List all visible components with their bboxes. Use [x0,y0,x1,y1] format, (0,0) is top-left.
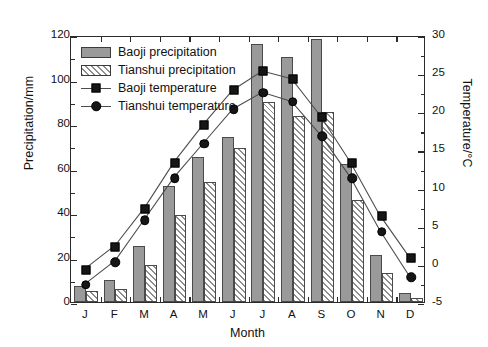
y-tick-label-left: 20 [30,251,70,263]
marker-tianshui-temperature [288,97,298,107]
legend-item-3: Tianshui temperature [81,97,236,115]
y-tick-label-right: 25 [432,66,472,78]
x-tick-label-d-11: D [398,308,422,320]
y-tick-label-left: 60 [30,162,70,174]
y-tick-label-left: 80 [30,117,70,129]
y-tick-label-left: 120 [30,28,70,40]
marker-baoji-temperature [377,212,386,221]
legend-item-0: Baoji precipitation [81,43,236,61]
marker-baoji-temperature [170,158,179,167]
marker-baoji-temperature [200,120,209,129]
marker-tianshui-temperature [377,227,387,237]
legend-item-2: Baoji temperature [81,79,236,97]
y-tick-label-right: 5 [432,219,472,231]
marker-baoji-temperature [407,254,416,263]
legend-swatch-solid-bar-swatch [81,47,111,58]
x-axis-label: Month [70,326,425,340]
marker-baoji-temperature [111,242,120,251]
legend-label: Baoji precipitation [118,45,217,59]
marker-tianshui-temperature [81,280,91,290]
x-tick-label-m-2: M [132,308,156,320]
y-axis-label-right: Temperature/°C [460,8,474,238]
legend-label: Tianshui temperature [118,99,236,113]
x-tick-label-j-0: J [73,308,97,320]
y-tick-label-right: 30 [432,28,472,40]
legend-marker [91,101,101,111]
marker-tianshui-temperature [259,88,269,98]
x-tick-label-f-1: F [102,308,126,320]
legend-swatch-hatched-bar-swatch [81,65,111,76]
legend-label: Tianshui precipitation [118,63,236,77]
marker-baoji-temperature [259,67,268,76]
marker-tianshui-temperature [170,173,180,183]
climate-chart-figure: Precipitation/mm Temperature/°C Month Ba… [0,0,488,347]
marker-tianshui-temperature [199,139,209,149]
legend-marker [92,84,101,93]
marker-tianshui-temperature [406,273,416,283]
y-tick-left [71,304,77,305]
x-tick-label-s-8: S [309,308,333,320]
marker-baoji-temperature [140,204,149,213]
line-tianshui-temperature [86,92,409,283]
y-tick-label-right: -5 [432,295,472,307]
x-tick-label-o-9: O [339,308,363,320]
y-tick-label-left: 40 [30,206,70,218]
marker-baoji-temperature [288,74,297,83]
marker-baoji-temperature [318,113,327,122]
legend-swatch-line-circle-swatch [81,101,111,112]
y-tick-label-left: 0 [30,295,70,307]
x-tick-label-j-5: J [221,308,245,320]
legend-swatch-line-square-swatch [81,83,111,94]
x-tick-label-a-7: A [280,308,304,320]
legend-label: Baoji temperature [118,81,217,95]
chart-legend: Baoji precipitationTianshui precipitatio… [81,43,236,115]
y-tick-right [418,304,424,305]
legend-item-1: Tianshui precipitation [81,61,236,79]
marker-tianshui-temperature [111,257,121,267]
x-tick-label-n-10: N [369,308,393,320]
y-tick-label-left: 100 [30,73,70,85]
y-tick-label-right: 20 [432,104,472,116]
marker-tianshui-temperature [347,173,357,183]
x-tick-label-a-3: A [162,308,186,320]
marker-tianshui-temperature [140,215,150,225]
marker-baoji-temperature [348,158,357,167]
y-tick-label-right: 0 [432,257,472,269]
marker-baoji-temperature [81,265,90,274]
x-tick-label-m-4: M [191,308,215,320]
y-tick-label-right: 10 [432,181,472,193]
y-tick-label-right: 15 [432,142,472,154]
plot-area: Baoji precipitationTianshui precipitatio… [70,36,425,303]
marker-tianshui-temperature [318,131,328,141]
x-tick-label-j-6: J [250,308,274,320]
